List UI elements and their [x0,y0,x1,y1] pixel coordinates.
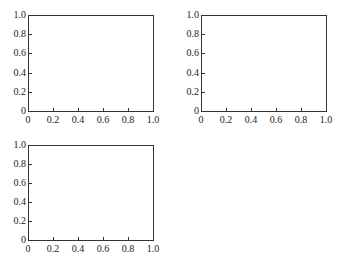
y-tick-label: 0.4 [177,68,199,78]
x-tick-label: 1.0 [141,244,165,254]
y-tick-label: 0.6 [4,178,26,188]
x-tick-mark [276,108,277,111]
y-tick-label: 0.6 [177,48,199,58]
y-tick-mark [29,111,32,112]
y-tick-mark [29,15,32,16]
x-tick-mark [53,108,54,111]
x-tick-label: 0.6 [91,115,115,125]
x-tick-label: 1.0 [141,115,165,125]
x-tick-label: 0.4 [239,115,263,125]
x-tick-mark [153,108,154,111]
y-tick-mark [202,15,205,16]
y-tick-mark [29,221,32,222]
x-tick-label: 0.4 [66,244,90,254]
x-tick-label: 0.2 [41,244,65,254]
x-tick-label: 0.4 [66,115,90,125]
y-tick-mark [29,53,32,54]
x-tick-label: 0.6 [264,115,288,125]
y-tick-label: 0.2 [4,216,26,226]
x-tick-label: 0.8 [116,244,140,254]
y-tick-label: 1.0 [4,10,26,20]
y-tick-label: 0.4 [4,197,26,207]
y-tick-mark [202,92,205,93]
y-tick-label: 1.0 [177,10,199,20]
y-tick-label: 0.8 [4,29,26,39]
x-tick-label: 0 [16,115,40,125]
x-tick-label: 0.2 [41,115,65,125]
x-tick-label: 0 [189,115,213,125]
y-tick-mark [29,34,32,35]
x-tick-mark [251,108,252,111]
y-tick-label: 0.2 [4,87,26,97]
y-tick-mark [29,164,32,165]
x-tick-mark [78,237,79,240]
x-tick-mark [326,108,327,111]
x-tick-mark [128,108,129,111]
y-tick-mark [29,183,32,184]
axes-top-left [28,15,154,112]
x-tick-mark [78,108,79,111]
y-tick-mark [29,73,32,74]
x-tick-label: 0.2 [214,115,238,125]
y-tick-mark [202,34,205,35]
y-tick-mark [202,73,205,74]
y-tick-label: 0.8 [4,159,26,169]
y-tick-mark [29,145,32,146]
x-tick-label: 0 [16,244,40,254]
x-tick-mark [53,237,54,240]
x-tick-mark [201,108,202,111]
x-tick-mark [28,237,29,240]
y-tick-label: 0.8 [177,29,199,39]
x-tick-label: 0.8 [116,115,140,125]
y-tick-label: 1.0 [4,140,26,150]
y-tick-label: 0.4 [4,68,26,78]
y-tick-mark [29,240,32,241]
x-tick-mark [28,108,29,111]
x-tick-mark [103,237,104,240]
x-tick-mark [103,108,104,111]
x-tick-mark [301,108,302,111]
x-tick-label: 0.8 [289,115,313,125]
y-tick-mark [29,92,32,93]
x-tick-mark [153,237,154,240]
y-tick-mark [29,202,32,203]
y-tick-label: 0.6 [4,48,26,58]
y-tick-mark [202,111,205,112]
x-tick-label: 1.0 [314,115,337,125]
y-tick-label: 0.2 [177,87,199,97]
axes-top-right [201,15,327,112]
x-tick-mark [128,237,129,240]
x-tick-label: 0.6 [91,244,115,254]
x-tick-mark [226,108,227,111]
axes-bottom-left [28,145,154,241]
y-tick-mark [202,53,205,54]
